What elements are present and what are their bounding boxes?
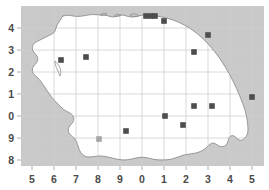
square-marker <box>191 49 197 55</box>
y-axis-tick-label: 8 <box>8 154 14 166</box>
square-marker <box>143 13 149 19</box>
square-marker <box>205 32 211 38</box>
x-axis-tick-label: 1 <box>161 173 167 185</box>
x-axis-tick-label: 2 <box>183 173 189 185</box>
x-axis-tick-label: 8 <box>95 173 101 185</box>
x-axis-tick-label: 3 <box>205 173 211 185</box>
y-axis-tick-labels: 4321098 <box>8 22 21 166</box>
y-axis-tick-label: 2 <box>8 66 14 78</box>
y-axis-tick-label: 4 <box>8 22 14 34</box>
y-axis-tick-label: 1 <box>8 88 14 100</box>
square-marker <box>123 128 129 134</box>
square-marker <box>191 103 197 109</box>
x-axis-tick-label: 9 <box>117 173 123 185</box>
square-marker <box>83 54 89 60</box>
map-plot-svg: 56789012345 4321098 <box>0 0 269 190</box>
square-marker <box>162 113 168 119</box>
x-axis-tick-labels: 56789012345 <box>29 166 255 185</box>
square-marker <box>249 94 255 100</box>
square-marker <box>152 13 158 19</box>
square-marker <box>58 57 64 63</box>
x-axis-tick-label: 6 <box>51 173 57 185</box>
square-marker <box>96 136 102 142</box>
y-axis-tick-label: 3 <box>8 44 14 56</box>
map-figure: 56789012345 4321098 <box>0 0 269 190</box>
x-axis-tick-label: 0 <box>139 173 145 185</box>
y-axis-tick-label: 0 <box>8 110 14 122</box>
square-marker <box>209 103 215 109</box>
x-axis-tick-label: 5 <box>29 173 35 185</box>
square-marker <box>161 18 167 24</box>
x-axis-tick-label: 7 <box>73 173 79 185</box>
square-marker <box>180 122 186 128</box>
x-axis-tick-label: 5 <box>249 173 255 185</box>
x-axis-tick-label: 4 <box>227 173 233 185</box>
y-axis-tick-label: 9 <box>8 132 14 144</box>
